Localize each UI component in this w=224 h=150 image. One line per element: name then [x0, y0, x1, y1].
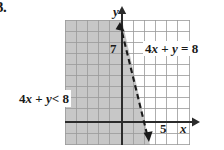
equation-right-side: 8	[192, 41, 199, 56]
equation-equals-sign: =	[181, 41, 188, 56]
inequality-variable-x: x	[26, 91, 33, 106]
y-intercept-tick-label: 7	[110, 42, 117, 55]
x-intercept-tick-label: 5	[160, 122, 167, 135]
inequality-right-side: 8	[62, 91, 69, 106]
boundary-line-equation-label: 4x + y = 8	[143, 41, 198, 56]
coordinate-plane	[0, 0, 224, 150]
solution-region-inequality-label: 4x + y< 8	[17, 90, 71, 107]
y-axis-label: y	[113, 5, 119, 18]
equation-variable-y: y	[172, 41, 178, 56]
inequality-less-than-sign: <	[52, 91, 59, 106]
inequality-plus-sign: +	[35, 91, 42, 106]
equation-variable-x: x	[152, 41, 159, 56]
graph-figure: y x 7 5 4x + y = 8 4x + y< 8	[0, 0, 224, 150]
equation-plus-sign: +	[161, 41, 168, 56]
x-axis-label: x	[180, 122, 187, 135]
